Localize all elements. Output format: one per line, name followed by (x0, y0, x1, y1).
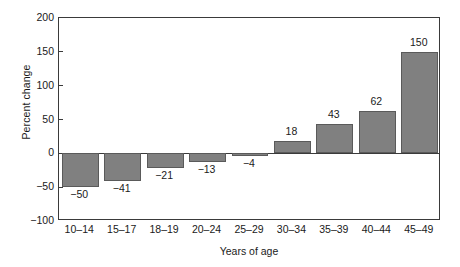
bar (232, 153, 269, 156)
bar-chart-figure: Percent change 200150100500−50−100 Years… (0, 0, 460, 267)
x-axis-tick-label: 45–49 (398, 224, 440, 235)
bar-value-label: −41 (100, 183, 142, 194)
y-axis-tick-label: −100 (18, 215, 54, 225)
bar (359, 111, 396, 153)
x-axis-tick-label: 40–44 (355, 224, 397, 235)
x-axis-tick-label: 18–19 (143, 224, 185, 235)
bar (147, 153, 184, 167)
x-axis-tick-label: 35–39 (313, 224, 355, 235)
bar-value-label: 43 (313, 109, 355, 120)
y-axis-tick-labels: 200150100500−50−100 (18, 0, 54, 267)
x-axis-tick-label: 20–24 (185, 224, 227, 235)
y-axis-tick-mark (59, 51, 63, 52)
bar (401, 52, 438, 154)
bar-value-label: −4 (228, 158, 270, 169)
y-axis-tick-mark (59, 119, 63, 120)
bar-value-label: 62 (355, 96, 397, 107)
y-axis-tick-label: 100 (18, 80, 54, 90)
x-axis-tick-label: 10–14 (58, 224, 100, 235)
y-axis-tick-label: 150 (18, 46, 54, 56)
bar (189, 153, 226, 162)
y-axis-tick-label: 200 (18, 12, 54, 22)
bar-value-label: −13 (185, 164, 227, 175)
bar (62, 153, 99, 187)
bar-value-label: 150 (398, 37, 440, 48)
y-axis-tick-mark (59, 85, 63, 86)
bar (316, 124, 353, 153)
y-axis-tick-label: 0 (18, 147, 54, 157)
bar (104, 153, 141, 181)
bar (274, 141, 311, 153)
bar-value-label: −50 (58, 189, 100, 200)
bar-value-label: 18 (270, 126, 312, 137)
x-axis-tick-label: 15–17 (100, 224, 142, 235)
x-axis-tick-label: 30–34 (270, 224, 312, 235)
y-axis-tick-label: 50 (18, 114, 54, 124)
y-axis-tick-label: −50 (18, 181, 54, 191)
bar-value-label: −21 (143, 170, 185, 181)
x-axis-tick-label: 25–29 (228, 224, 270, 235)
x-axis-title: Years of age (58, 245, 440, 257)
